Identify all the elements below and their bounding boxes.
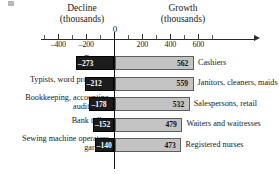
axis-tick-label: 600: [183, 40, 213, 49]
axis-tick-major: [170, 34, 171, 39]
bar-row: Farmers–273562Cashiers: [0, 54, 279, 74]
axis-tick-label: –400: [43, 40, 73, 49]
growth-header: Growth (thousands): [140, 3, 226, 24]
growth-value-label: 473: [165, 141, 176, 150]
growth-category-label: Cashiers: [198, 58, 226, 67]
axis-tick-major: [58, 34, 59, 39]
x-axis-arrow-icon: [254, 35, 260, 41]
growth-value-label: 532: [173, 100, 184, 109]
bar-row: Typists, word processors–212559Janitors,…: [0, 75, 279, 95]
decline-header: Decline (thousands): [44, 3, 120, 24]
decline-value-label: –212: [87, 79, 102, 88]
growth-value-label: 559: [177, 79, 188, 88]
axis-tick-major: [86, 34, 87, 39]
bar-row: Bookkeeping, accounting,audit clerks–178…: [0, 95, 279, 115]
axis-tick-minor: [156, 35, 157, 39]
axis-tick-minor: [44, 35, 45, 39]
decline-value-label: –273: [78, 59, 93, 68]
decline-value-label: –178: [91, 100, 106, 109]
growth-value-label: 479: [165, 120, 176, 129]
axis-tick-minor: [212, 35, 213, 39]
growth-category-label: Janitors, cleaners, maids: [198, 78, 278, 87]
axis-tick-major: [142, 34, 143, 39]
axis-tick-minor: [184, 35, 185, 39]
decline-value-label: –152: [95, 120, 110, 129]
axis-tick-minor: [100, 35, 101, 39]
axis-tick-minor: [72, 35, 73, 39]
axis-tick-major: [198, 34, 199, 39]
growth-category-label: Salespersons, retail: [194, 99, 257, 108]
occupation-change-bar-chart: Decline (thousands) Growth (thousands) 0…: [0, 0, 279, 174]
growth-category-label: Waiters and waitresses: [186, 119, 260, 128]
axis-tick-minor: [128, 35, 129, 39]
growth-header-line1: Growth: [140, 3, 226, 14]
axis-tick-label: 200: [127, 40, 157, 49]
decline-value-label: –140: [97, 141, 112, 150]
bar-row: Bank tellers–152479Waiters and waitresse…: [0, 116, 279, 136]
axis-tick-label: 400: [155, 40, 185, 49]
growth-value-label: 562: [177, 59, 188, 68]
growth-category-label: Registered nurses: [186, 140, 244, 149]
bar-row: Sewing machine operators,garment–140473R…: [0, 136, 279, 156]
figure-corner-artifact: [8, 1, 14, 6]
decline-header-line1: Decline: [44, 3, 120, 14]
decline-header-line2: (thousands): [44, 14, 120, 25]
growth-header-line2: (thousands): [140, 14, 226, 25]
axis-tick-label: –200: [71, 40, 101, 49]
